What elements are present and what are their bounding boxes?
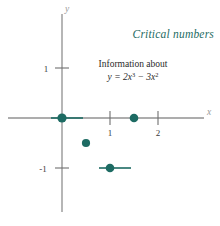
y-axis-label: y [64, 4, 70, 14]
equation-exponent-2: 2 [155, 71, 158, 78]
data-point-local-minimum [99, 164, 131, 173]
caption-equation: y = 2x3 − 3x2 [107, 71, 159, 83]
x-tick-label-1: 1 [108, 128, 113, 138]
x-tick-label-2: 2 [156, 128, 161, 138]
y-tick-label-1: 1 [44, 64, 49, 74]
critical-numbers-plot: y x 1 -1 1 2 Critical numbers Infor [0, 0, 220, 226]
data-point-inflection [82, 139, 90, 147]
marker-local-minimum [106, 164, 115, 173]
x-axis-label: x [206, 107, 212, 117]
marker-x-intercept [130, 114, 139, 123]
marker-origin [57, 113, 66, 122]
marker-inflection [82, 139, 90, 147]
data-point-origin [51, 113, 83, 122]
y-tick-label-neg1: -1 [39, 164, 47, 174]
figure-title: Critical numbers [133, 28, 215, 40]
equation-part-2: − 3x [135, 72, 156, 82]
caption-line-1: Information about [99, 59, 168, 69]
equation-part-1: y = 2x [107, 72, 133, 82]
figure-container: y x 1 -1 1 2 Critical numbers Infor [0, 0, 220, 226]
data-point-x-intercept [130, 114, 139, 123]
